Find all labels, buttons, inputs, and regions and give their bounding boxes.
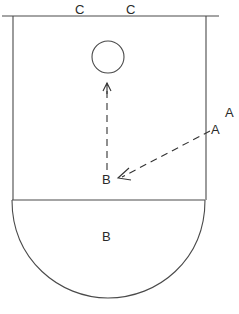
label-a-inside: A bbox=[211, 122, 220, 137]
court-diagram: C C A A B B bbox=[0, 0, 239, 314]
label-c-right: C bbox=[126, 2, 135, 17]
label-b-player: B bbox=[102, 172, 111, 187]
label-c-left: C bbox=[75, 2, 84, 17]
bottom-arc bbox=[12, 200, 205, 298]
pass-arrow bbox=[122, 131, 210, 177]
label-b-zone: B bbox=[102, 229, 111, 244]
label-a-outside: A bbox=[225, 105, 234, 120]
ball-circle bbox=[92, 41, 124, 73]
pass-arrowhead-icon bbox=[118, 168, 131, 180]
